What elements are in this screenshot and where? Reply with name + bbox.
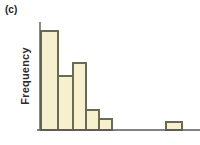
plot-area bbox=[0, 0, 200, 145]
histogram-bar bbox=[86, 110, 99, 130]
histogram-figure: (c) Frequency bbox=[0, 0, 200, 145]
bars-group bbox=[41, 31, 182, 130]
histogram-bar bbox=[166, 122, 182, 130]
histogram-bar bbox=[73, 63, 86, 130]
histogram-bar bbox=[41, 31, 58, 130]
histogram-bar bbox=[58, 76, 73, 130]
histogram-bar bbox=[99, 119, 112, 130]
